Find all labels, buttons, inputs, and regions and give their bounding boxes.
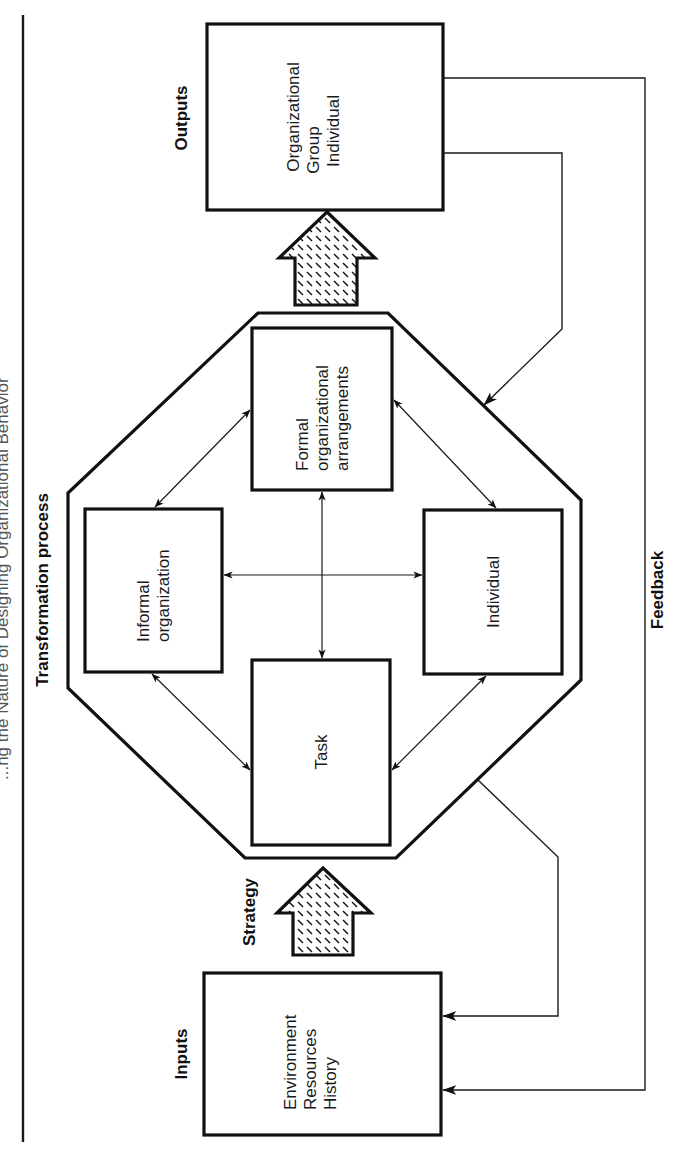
task-box: Task	[252, 660, 390, 845]
inputs-line-3: History	[321, 1057, 340, 1110]
inputs-label: Inputs	[172, 1029, 191, 1080]
rel-informal-formal	[155, 410, 250, 507]
feedback-outputs-to-transformation	[443, 153, 562, 405]
outputs-label-text: Outputs	[172, 85, 191, 150]
rel-individual-task	[392, 676, 486, 770]
feedback-transformation-to-inputs	[443, 780, 558, 1016]
transformation-label-text: Transformation process	[33, 493, 52, 687]
strategy-label-text: Strategy	[240, 877, 259, 946]
informal-line-2: organization	[154, 549, 173, 642]
output-flow-arrow	[279, 212, 375, 305]
formal-line-3: arrangements	[333, 366, 352, 471]
feedback-label: Feedback	[648, 550, 667, 629]
strategy-label: Strategy	[240, 877, 259, 946]
outputs-box: Organizational Group Individual	[207, 24, 443, 210]
formal-line-1: Formal	[293, 418, 312, 471]
formal-line-2: organizational	[313, 365, 332, 471]
informal-organization-box: Informal organization	[85, 509, 222, 672]
inputs-line-1: Environment	[281, 1014, 300, 1110]
inputs-line-2: Resources	[301, 1029, 320, 1110]
inputs-box: Environment Resources History	[204, 973, 441, 1135]
outputs-line-2: Group	[304, 126, 323, 173]
inputs-label-text: Inputs	[172, 1029, 191, 1080]
task-text: Task	[312, 734, 331, 769]
formal-arrangements-box: Formal organizational arrangements	[252, 328, 392, 490]
outputs-line-3: Individual	[324, 95, 343, 167]
informal-line-1: Informal	[134, 581, 153, 642]
feedback-label-text: Feedback	[648, 550, 667, 629]
outputs-label: Outputs	[172, 85, 191, 150]
rel-informal-task	[152, 674, 250, 770]
individual-text: Individual	[484, 556, 503, 628]
congruence-model-diagram: ...ng the Nature of Designing Organizati…	[0, 0, 679, 1157]
outputs-line-1: Organizational	[284, 62, 303, 172]
rel-formal-individual	[394, 400, 496, 508]
figure-title: ...ng the Nature of Designing Organizati…	[0, 377, 12, 780]
title-text: ...ng the Nature of Designing Organizati…	[0, 377, 12, 780]
transformation-label: Transformation process	[33, 493, 52, 687]
strategy-flow-arrow	[277, 868, 371, 955]
individual-box: Individual	[424, 510, 562, 674]
